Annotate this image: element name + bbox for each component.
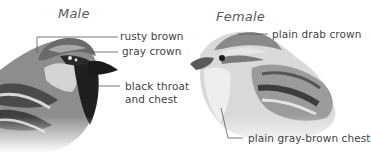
male-title: Male <box>58 6 90 21</box>
label-rusty-brown: rusty brown <box>120 30 184 43</box>
label-plain-gray-brown-chest: plain gray-brown chest <box>248 132 371 145</box>
label-plain-drab-crown: plain drab crown <box>272 28 361 41</box>
label-black-throat-line2: and chest <box>125 93 189 106</box>
label-black-throat: black throat and chest <box>125 80 189 106</box>
label-black-throat-line1: black throat <box>125 80 189 93</box>
female-title: Female <box>216 9 265 24</box>
label-gray-crown: gray crown <box>122 45 182 58</box>
male-sparrow-illustration <box>0 30 130 153</box>
